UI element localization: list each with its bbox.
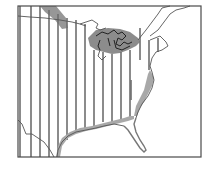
range-map <box>0 0 211 180</box>
map-outlines <box>18 6 190 157</box>
coast-band-atlantic <box>134 70 154 116</box>
northeast-coast <box>138 6 190 40</box>
florida-outline <box>124 118 146 152</box>
